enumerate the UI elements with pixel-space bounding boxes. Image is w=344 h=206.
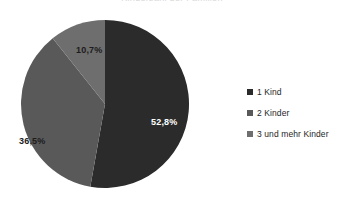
pie-label-1-kind: 52,8% — [151, 117, 178, 127]
clipped-chart-title-text: Kinderzahl der Familien — [121, 0, 222, 3]
legend-item-1-kind[interactable]: 1 Kind — [247, 81, 342, 102]
legend-swatch-icon — [247, 89, 253, 95]
legend-item-3-und-mehr-kinder[interactable]: 3 und mehr Kinder — [247, 123, 342, 144]
pie-plot-area: 52,8% 36,5% 10,7% — [19, 18, 191, 190]
pie-chart-figure: Kinderzahl der Familien 52,8% 36,5% 10,7… — [0, 0, 344, 206]
legend-swatch-icon — [247, 131, 253, 137]
legend-item-label: 3 und mehr Kinder — [257, 129, 329, 139]
pie-slice-1-kind[interactable] — [90, 20, 189, 188]
pie-label-3-und-mehr-kinder: 10,7% — [76, 45, 103, 55]
pie-label-2-kinder: 36,5% — [19, 136, 46, 146]
chart-legend: 1 Kind 2 Kinder 3 und mehr Kinder — [247, 81, 342, 144]
legend-item-label: 1 Kind — [257, 87, 282, 97]
legend-swatch-icon — [247, 110, 253, 116]
pie-svg — [19, 18, 191, 190]
clipped-chart-title: Kinderzahl der Familien — [0, 0, 344, 5]
legend-item-label: 2 Kinder — [257, 108, 289, 118]
legend-item-2-kinder[interactable]: 2 Kinder — [247, 102, 342, 123]
